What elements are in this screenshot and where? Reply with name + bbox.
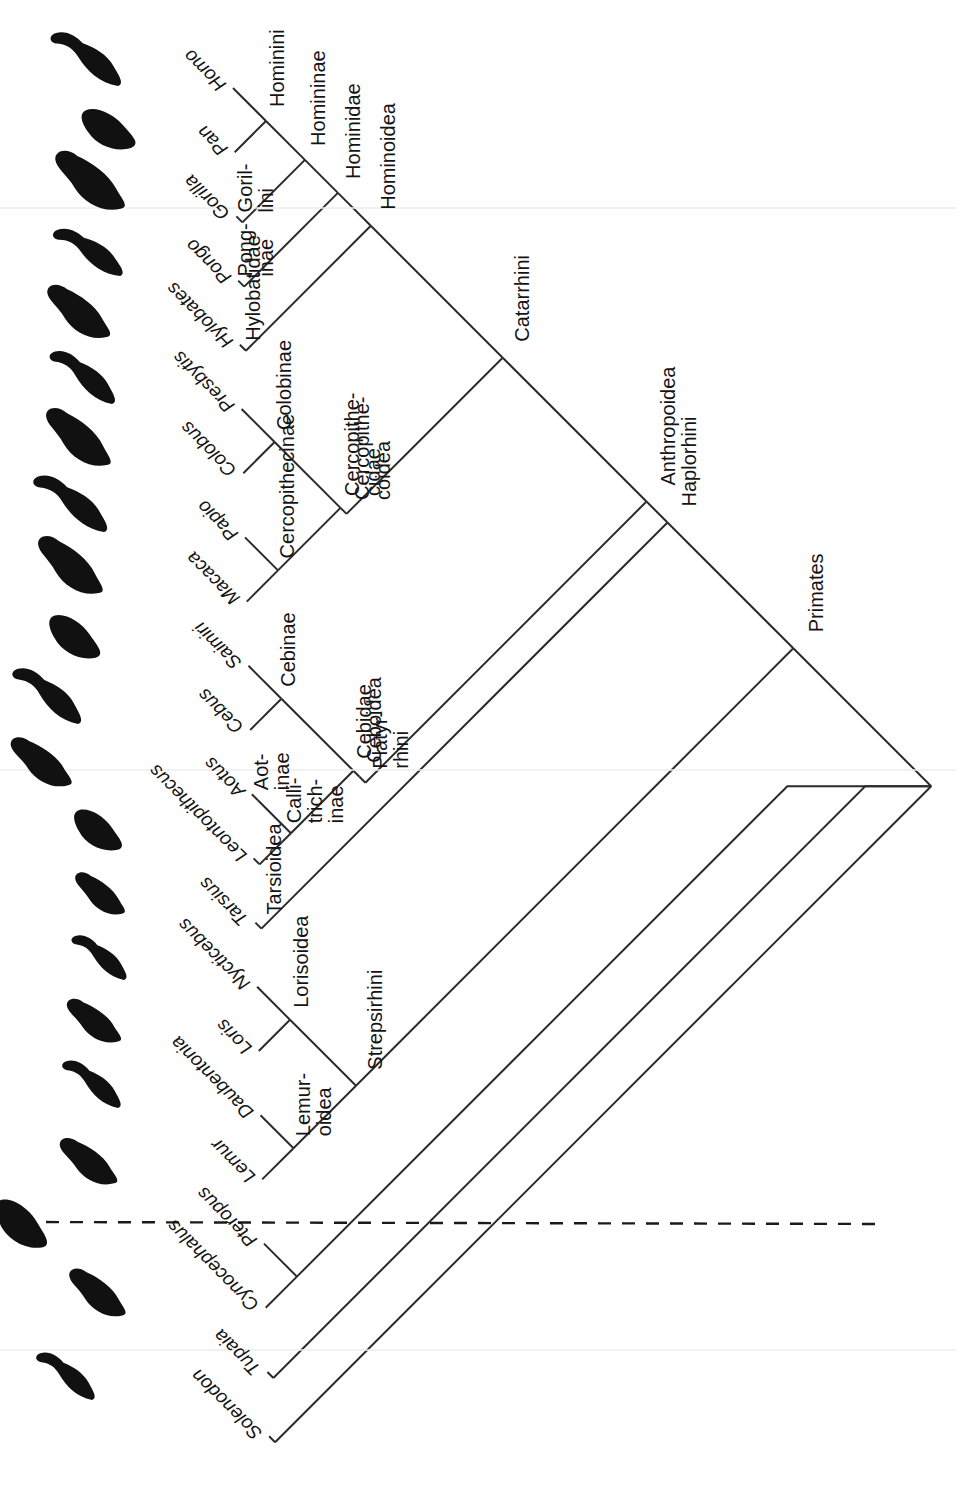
clade-label-cercopithecinae: Cercopithecinae (276, 414, 298, 559)
baboon-silhouette (31, 465, 115, 538)
clade-tarsioidea[interactable]: Tarsioidea (263, 823, 285, 915)
clade-primates[interactable]: Primates (805, 553, 827, 632)
clade-anthropoidea[interactable]: Anthropoidea (657, 366, 679, 486)
branch (254, 858, 260, 864)
clade-line: Calli- (283, 778, 305, 824)
clade-label-tarsioidea: Tarsioidea (263, 823, 285, 915)
tip-label-macaca: Macaca (182, 548, 244, 610)
clade-line: rhini (390, 731, 412, 769)
tip-solenodon[interactable]: Solenodon (187, 1365, 266, 1444)
tip-label-saimiri: Saimiri (189, 617, 245, 673)
clade-strepsirhini[interactable]: Strepsirhini (364, 970, 386, 1070)
slow-loris-silhouette (70, 927, 133, 984)
clade-line: Hylobatidae (242, 235, 264, 341)
branch (240, 345, 246, 351)
clade-line: lini (255, 188, 277, 212)
clade-line: Strepsirhini (364, 970, 386, 1070)
clade-lorisoidea[interactable]: Lorisoidea (290, 915, 312, 1008)
branch (353, 771, 359, 777)
tip-macaca[interactable]: Macaca (182, 548, 244, 610)
tip-label-cebus: Cebus (193, 684, 247, 738)
langur-silhouette-path (48, 342, 123, 410)
colobus-silhouette-path (37, 400, 118, 478)
clade-line: Catarrhini (511, 255, 533, 342)
colugo-silhouette (62, 1261, 132, 1326)
tip-label-gorilla: Gorilla (180, 171, 234, 225)
branch (297, 786, 931, 1276)
clade-cercopithecinae[interactable]: Cercopithecinae (276, 414, 298, 559)
tip-homo[interactable]: Homo (179, 45, 230, 96)
clade-line: Cebinae (277, 612, 299, 687)
capuchin-silhouette (10, 658, 89, 729)
tip-label-colobus: Colobus (176, 417, 240, 481)
clade-label-hominini: Hominini (266, 29, 288, 107)
tip-hylobates[interactable]: Hylobates (162, 278, 237, 353)
human-silhouette (49, 22, 129, 91)
clade-callitrichinae[interactable]: Calli-trich-inae (283, 778, 347, 824)
tip-tupaia[interactable]: Tupaia (209, 1325, 264, 1380)
tip-presbytis[interactable]: Presbytis (168, 347, 238, 417)
orangutan-silhouette-path (51, 219, 129, 281)
clade-haplorhini[interactable]: Haplorhini (678, 416, 700, 506)
squirrel-monkey-silhouette-path (40, 608, 107, 668)
clade-line: oidea (313, 1086, 335, 1136)
clade-catarrhini[interactable]: Catarrhini (511, 255, 533, 342)
branch (273, 786, 931, 1378)
clade-label-homininae: Homininae (307, 50, 329, 146)
clade-line: Homininae (307, 50, 329, 146)
chimpanzee-silhouette-path (74, 102, 142, 159)
clade-gorillini[interactable]: Goril-lini (234, 164, 277, 213)
tip-pan[interactable]: Pan (193, 121, 232, 160)
tip-cebus[interactable]: Cebus (193, 684, 247, 738)
branch (266, 1277, 297, 1308)
branch (255, 923, 261, 929)
clade-line: coidea (372, 440, 394, 500)
clade-cebinae[interactable]: Cebinae (277, 612, 299, 687)
branch (257, 987, 290, 1020)
clade-line: Lorisoidea (290, 915, 312, 1008)
tip-tarsius[interactable]: Tarsius (194, 873, 252, 931)
tip-papio[interactable]: Papio (193, 496, 242, 545)
branch (247, 570, 278, 601)
clade-hylobatidae[interactable]: Hylobatidae (242, 235, 264, 341)
clade-line: inae (325, 785, 347, 823)
clade-hominoidea[interactable]: Hominoidea (377, 102, 399, 210)
tip-label-pongo: Pongo (181, 235, 235, 289)
tip-pongo[interactable]: Pongo (181, 235, 235, 289)
tip-label-pan: Pan (193, 121, 232, 160)
clade-cercopithecoidea[interactable]: Cercopithe-coidea (351, 397, 394, 500)
branch (305, 160, 338, 193)
clade-platyrrhini[interactable]: Platyr-rhini (369, 711, 412, 769)
branch (236, 216, 242, 222)
clade-label-hylobatidae: Hylobatidae (242, 235, 264, 341)
clade-line: Aot- (250, 754, 272, 791)
clade-hominidae[interactable]: Hominidae (342, 83, 364, 179)
clade-homininae[interactable]: Homininae (307, 50, 329, 146)
branch (371, 226, 503, 358)
flying-fox-silhouette-path (0, 1192, 56, 1258)
tip-lemur[interactable]: Lemur (206, 1134, 259, 1187)
clade-label-lorisoidea: Lorisoidea (290, 915, 312, 1008)
clade-line: Goril- (234, 164, 256, 213)
phylogeny-figure: HomoPanGorillaPongoHylobatesPresbytisCol… (0, 0, 956, 1507)
clade-line: Lemur- (292, 1073, 314, 1136)
tip-silhouettes (0, 22, 142, 1404)
clade-hominini[interactable]: Hominini (266, 29, 288, 107)
aye-aye-silhouette-path (60, 1052, 127, 1112)
clade-lemuroidea[interactable]: Lemur-oidea (292, 1073, 335, 1136)
clade-label-anthropoidea: Anthropoidea (657, 366, 679, 486)
branch (261, 523, 667, 929)
tip-saimiri[interactable]: Saimiri (189, 617, 245, 673)
branch (252, 794, 258, 800)
lemur-silhouette-path (53, 1131, 124, 1194)
tip-gorilla[interactable]: Gorilla (180, 171, 234, 225)
tip-aotus[interactable]: Aotus (199, 753, 249, 803)
tip-label-homo: Homo (179, 45, 230, 96)
clade-label-primates: Primates (805, 553, 827, 632)
clade-line: Cercopithecinae (276, 414, 298, 559)
gorilla-silhouette (46, 142, 132, 222)
flying-fox-silhouette (0, 1192, 56, 1258)
tip-loris[interactable]: Loris (211, 1015, 255, 1059)
tip-colobus[interactable]: Colobus (176, 417, 240, 481)
clade-line: Haplorhini (678, 416, 700, 506)
